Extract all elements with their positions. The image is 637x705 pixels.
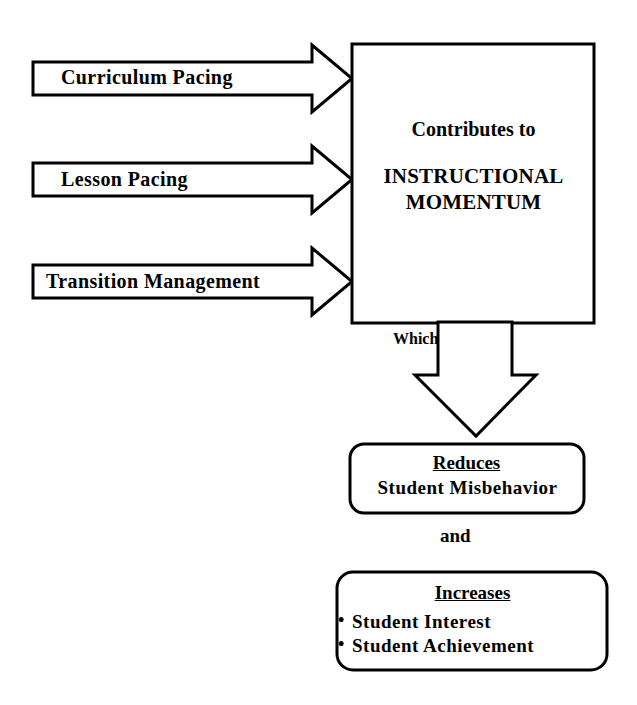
- input-arrow-label-curriculum-pacing: Curriculum Pacing: [61, 66, 233, 88]
- diagram-canvas: Curriculum Pacing Lesson Pacing Transiti…: [0, 0, 637, 705]
- main-box-line-momentum: MOMENTUM: [353, 189, 594, 215]
- input-arrow-label-lesson-pacing: Lesson Pacing: [61, 168, 188, 190]
- outcome-box-reduces-content: Reduces Student Misbehavior: [351, 452, 584, 499]
- bullet-icon: •: [338, 609, 345, 632]
- list-item: • Student Achievement: [338, 634, 607, 658]
- input-arrow-label-transition-management: Transition Management: [46, 270, 260, 292]
- outcome-reduces-body: Student Misbehavior: [351, 477, 584, 499]
- outcome-reduces-heading-wrap: Reduces: [351, 452, 584, 474]
- bullet-icon: •: [338, 633, 345, 656]
- outcome-increases-heading: Increases: [433, 582, 513, 604]
- outcome-increases-item-2: Student Achievement: [352, 635, 534, 656]
- main-box-content: Contributes to INSTRUCTIONAL MOMENTUM: [353, 118, 594, 215]
- outcome-increases-item-1: Student Interest: [352, 611, 491, 632]
- main-box-title: INSTRUCTIONAL MOMENTUM: [353, 163, 594, 215]
- outcome-increases-list: • Student Interest • Student Achievement: [338, 610, 607, 659]
- conjunction-and: and: [440, 525, 471, 546]
- outcome-increases-heading-wrap: Increases: [338, 582, 607, 604]
- connector-label-which: Which: [393, 330, 438, 348]
- outcome-box-increases-content: Increases • Student Interest • Student A…: [338, 582, 607, 659]
- main-box-line-contributes: Contributes to: [353, 118, 594, 141]
- list-item: • Student Interest: [338, 610, 607, 634]
- outcome-reduces-heading: Reduces: [433, 452, 503, 474]
- main-box-line-instructional: INSTRUCTIONAL: [353, 163, 594, 189]
